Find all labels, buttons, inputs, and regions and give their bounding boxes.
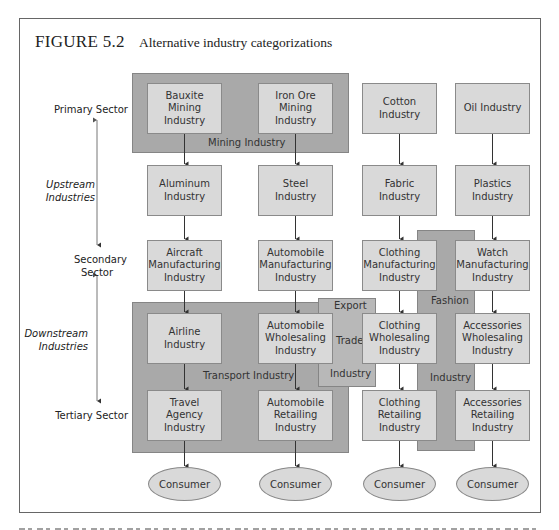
industry-node: Accessories Wholesaling Industry [455,313,530,364]
industry-node: Airline Industry [147,313,222,364]
industry-node: Clothing Manufacturing Industry [362,240,437,291]
cropped-text-below [19,524,539,530]
consumer-node: Consumer [148,467,221,501]
industry-node: Automobile Manufacturing Industry [258,240,333,291]
consumer-node: Consumer [363,467,436,501]
downstream-industries-label: Downstream Industries [18,328,88,353]
industry-node: Travel Agency Industry [147,390,222,441]
transport-industry-label: Transport Industry [203,370,294,381]
secondary-sector-label: Secondary Sector [74,254,120,279]
primary-sector-label: Primary Sector [54,104,128,117]
industry-node: Automobile Retailing Industry [258,390,333,441]
industry-node: Bauxite Mining Industry [147,83,222,134]
export-trade-label-industry: Industry [330,368,371,379]
industry-node: Automobile Wholesaling Industry [258,313,333,364]
export-trade-label-trade: Trade [336,335,363,346]
industry-node: Clothing Retailing Industry [362,390,437,441]
mining-industry-label: Mining Industry [208,137,286,148]
consumer-node: Consumer [456,467,529,501]
industry-node: Cotton Industry [362,83,437,134]
industry-node: Aluminum Industry [147,165,222,216]
industry-node: Fabric Industry [362,165,437,216]
consumer-node: Consumer [259,467,332,501]
industry-node: Watch Manufacturing Industry [455,240,530,291]
industry-node: Iron Ore Mining Industry [258,83,333,134]
fashion-industry-label: Industry [430,372,471,383]
industry-node: Steel Industry [258,165,333,216]
industry-node: Clothing Wholesaling Industry [362,313,437,364]
industry-node: Oil Industry [455,83,530,134]
industry-node: Accessories Retailing Industry [455,390,530,441]
export-trade-label-export: Export [334,300,367,311]
industry-node: Aircraft Manufacturing Industry [147,240,222,291]
fashion-label: Fashion [431,295,469,306]
industry-node: Plastics Industry [455,165,530,216]
tertiary-sector-label: Tertiary Sector [55,410,128,423]
upstream-industries-label: Upstream Industries [25,179,95,204]
